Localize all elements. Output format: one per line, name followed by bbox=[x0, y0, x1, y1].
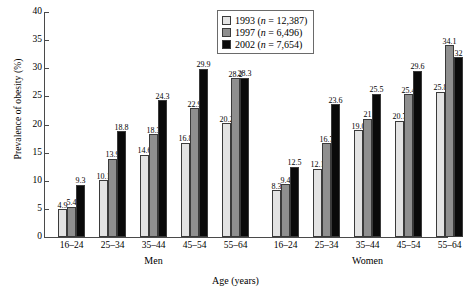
bar-2002-men-55-64: 28.3 bbox=[240, 78, 249, 237]
legend-label-1997: 1997 (n = 6,496) bbox=[235, 27, 302, 38]
legend-item-2002: 2002 (n = 7,654) bbox=[222, 38, 307, 50]
legend-swatch-2002 bbox=[222, 40, 231, 49]
bar-2002-women-35-44: 25.5 bbox=[372, 94, 381, 237]
panel-label-men: Men bbox=[109, 255, 199, 266]
x-axis-title: Age (years) bbox=[0, 275, 471, 286]
bar-2002-women-16-24: 12.5 bbox=[290, 167, 299, 237]
bar-group: 16.822.929.9 bbox=[181, 69, 208, 237]
bar-1993-men-45-54: 16.8 bbox=[181, 143, 190, 238]
bar-1997-women-35-44: 21 bbox=[363, 119, 372, 237]
bar-2002-women-25-34: 23.6 bbox=[331, 104, 340, 237]
y-tick-label: 35 bbox=[0, 35, 49, 45]
legend: 1993 (n = 12,387)1997 (n = 6,496)2002 (n… bbox=[217, 10, 314, 54]
bar-value-label: 28.3 bbox=[238, 69, 252, 78]
bar-1993-men-35-44: 14.6 bbox=[140, 155, 149, 237]
bar-value-label: 25.5 bbox=[370, 85, 384, 94]
bar-group: 20.725.429.6 bbox=[395, 71, 422, 238]
bar-2002-men-45-54: 29.9 bbox=[199, 69, 208, 237]
legend-swatch-1997 bbox=[222, 28, 231, 37]
bar-value-label: 32 bbox=[455, 49, 463, 58]
bar-2002-women-45-54: 29.6 bbox=[413, 71, 422, 238]
y-tick-label: 25 bbox=[0, 91, 49, 101]
y-tick-label: 5 bbox=[0, 204, 49, 214]
bar-value-label: 24.3 bbox=[156, 92, 170, 101]
bar-group: 12.116.723.6 bbox=[313, 104, 340, 237]
bar-1997-men-25-34: 13.9 bbox=[108, 159, 117, 237]
bar-1993-women-55-64: 25.8 bbox=[436, 92, 445, 237]
bar-group: 20.228.228.3 bbox=[222, 78, 249, 237]
legend-label-2002: 2002 (n = 7,654) bbox=[235, 39, 302, 50]
bar-1993-women-25-34: 12.1 bbox=[313, 169, 322, 237]
category-label-women-55-64: 55–64 bbox=[425, 240, 471, 251]
bar-2002-women-55-64: 32 bbox=[454, 57, 463, 237]
y-tick-label: 15 bbox=[0, 148, 49, 158]
bar-group: 4.95.49.3 bbox=[58, 185, 85, 237]
bar-1997-women-45-54: 25.4 bbox=[404, 94, 413, 237]
bar-value-label: 12.5 bbox=[288, 158, 302, 167]
legend-swatch-1993 bbox=[222, 16, 231, 25]
bar-1993-women-35-44: 19.0 bbox=[354, 130, 363, 237]
legend-item-1997: 1997 (n = 6,496) bbox=[222, 26, 307, 38]
bar-1997-men-16-24: 5.4 bbox=[67, 207, 76, 237]
bar-1997-men-55-64: 28.2 bbox=[231, 78, 240, 237]
y-axis-title: Prevalence of obesity (%) bbox=[13, 0, 23, 219]
y-tick-label: 30 bbox=[0, 63, 49, 73]
bar-value-label: 29.6 bbox=[411, 62, 425, 71]
bar-value-label: 9.3 bbox=[76, 176, 86, 185]
bar-value-label: 23.6 bbox=[329, 96, 343, 105]
bar-group: 19.02125.5 bbox=[354, 94, 381, 237]
bar-value-label: 5.4 bbox=[67, 198, 77, 207]
bar-value-label: 29.9 bbox=[197, 60, 211, 69]
category-label-men-55-64: 55–64 bbox=[211, 240, 261, 251]
obesity-prevalence-bar-chart: Prevalence of obesity (%) 05101520253035… bbox=[0, 0, 471, 301]
bar-1997-men-45-54: 22.9 bbox=[190, 108, 199, 237]
bar-1997-women-55-64: 34.1 bbox=[445, 45, 454, 237]
bar-1997-women-25-34: 16.7 bbox=[322, 143, 331, 237]
bar-2002-men-35-44: 24.3 bbox=[158, 100, 167, 237]
bar-1993-women-16-24: 8.3 bbox=[272, 190, 281, 237]
panel-label-women: Women bbox=[323, 255, 413, 266]
bar-value-label: 34.1 bbox=[443, 37, 457, 46]
bar-1993-men-25-34: 10.1 bbox=[99, 180, 108, 237]
bar-1997-men-35-44: 18.3 bbox=[149, 134, 158, 237]
bar-value-label: 18.8 bbox=[115, 123, 129, 132]
y-tick-label: 40 bbox=[0, 7, 49, 17]
bar-1993-women-45-54: 20.7 bbox=[395, 121, 404, 237]
bar-2002-men-16-24: 9.3 bbox=[76, 185, 85, 237]
bar-group: 8.39.412.5 bbox=[272, 167, 299, 237]
bar-group: 25.834.132 bbox=[436, 45, 463, 237]
bar-1993-men-55-64: 20.2 bbox=[222, 123, 231, 237]
y-tick-label: 0 bbox=[0, 232, 49, 242]
y-tick-label: 10 bbox=[0, 176, 49, 186]
bar-group: 10.113.918.8 bbox=[99, 131, 126, 237]
legend-item-1993: 1993 (n = 12,387) bbox=[222, 14, 307, 26]
bar-2002-men-25-34: 18.8 bbox=[117, 131, 126, 237]
bar-1997-women-16-24: 9.4 bbox=[281, 184, 290, 237]
bar-value-label: 21 bbox=[364, 110, 372, 119]
bar-value-label: 9.4 bbox=[281, 176, 291, 185]
legend-label-1993: 1993 (n = 12,387) bbox=[235, 15, 307, 26]
x-axis-line bbox=[44, 237, 448, 238]
bar-group: 14.618.324.3 bbox=[140, 100, 167, 237]
bar-1993-men-16-24: 4.9 bbox=[58, 209, 67, 237]
y-tick-label: 20 bbox=[0, 120, 49, 130]
